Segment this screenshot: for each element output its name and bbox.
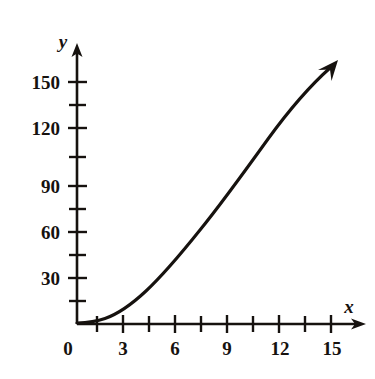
x-axis-label: x [343,296,354,317]
x-tick-label-3: 3 [118,338,128,359]
y-tick-label-30: 30 [41,268,60,289]
y-tick-label-150: 150 [32,72,61,93]
y-tick-label-90: 90 [41,176,60,197]
x-tick-label-9: 9 [222,338,232,359]
y-tick-label-60: 60 [41,222,60,243]
x-tick-label-15: 15 [323,338,342,359]
y-tick-label-120: 120 [32,118,61,139]
x-tick-label-12: 12 [271,338,290,359]
y-axis-label: y [57,31,68,52]
x-tick-label-0: 0 [63,338,73,359]
x-tick-label-6: 6 [170,338,180,359]
chart-figure: 150 120 90 60 30 0 3 6 9 12 15 y x [0,0,375,379]
